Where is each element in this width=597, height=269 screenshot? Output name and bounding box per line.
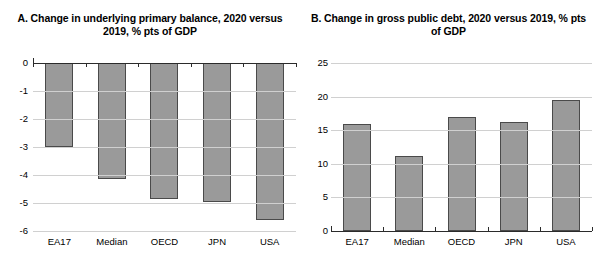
x-tick-label-oecd: OECD [435, 236, 487, 247]
x-axis-end-cap [296, 63, 297, 67]
gridline [33, 231, 296, 232]
x-tick-label-median: Median [383, 236, 435, 247]
bar-median [395, 156, 423, 231]
bar-slot-jpn [488, 63, 540, 231]
bar-slot-oecd [435, 63, 487, 231]
x-axis-tick [435, 227, 436, 231]
panel-b-y-axis: 0510152025 [300, 0, 328, 269]
gridline [331, 63, 592, 64]
x-axis-tick [540, 227, 541, 231]
y-tick-label: -4 [2, 170, 28, 180]
y-tick-label: 0 [2, 58, 28, 68]
panel-a-x-tick-labels: EA17MedianOECDJPNUSA [33, 236, 296, 247]
x-tick-label-usa: USA [540, 236, 592, 247]
x-axis-tick [243, 63, 244, 67]
bar-slot-median [383, 63, 435, 231]
gridline [33, 91, 296, 92]
gridline [33, 203, 296, 204]
x-axis-end-cap [331, 227, 332, 231]
bar-jpn [500, 122, 528, 231]
y-tick-label: -5 [2, 198, 28, 208]
bar-usa [552, 100, 580, 231]
bar-oecd [150, 63, 178, 199]
y-tick-label: -1 [2, 86, 28, 96]
panel-b-title: B. Change in gross public debt, 2020 ver… [308, 12, 589, 38]
x-axis-end-cap [592, 227, 593, 231]
bar-oecd [448, 117, 476, 231]
gridline [331, 197, 592, 198]
x-tick-label-median: Median [86, 236, 139, 247]
y-tick-label: 20 [302, 92, 328, 102]
panel-b-plot-area [331, 63, 592, 231]
y-tick-label: 15 [302, 125, 328, 135]
y-tick-label: 0 [302, 226, 328, 236]
x-tick-label-ea17: EA17 [33, 236, 86, 247]
gridline [331, 130, 592, 131]
x-tick-label-usa: USA [243, 236, 296, 247]
gridline [33, 119, 296, 120]
gridline [331, 97, 592, 98]
x-axis-tick [191, 63, 192, 67]
y-tick-label: -6 [2, 226, 28, 236]
figure-canvas: A. Change in underlying primary balance,… [0, 0, 597, 269]
panel-b-x-tick-labels: EA17MedianOECDJPNUSA [331, 236, 592, 247]
bar-slot-ea17 [331, 63, 383, 231]
y-tick-label: -2 [2, 114, 28, 124]
x-axis-tick [488, 227, 489, 231]
gridline [33, 175, 296, 176]
x-axis-tick [138, 63, 139, 67]
x-tick-label-jpn: JPN [488, 236, 540, 247]
gridline [33, 147, 296, 148]
x-tick-label-ea17: EA17 [331, 236, 383, 247]
x-tick-label-oecd: OECD [138, 236, 191, 247]
gridline [331, 164, 592, 165]
bar-jpn [203, 63, 231, 202]
x-axis-tick [86, 63, 87, 67]
x-axis-end-cap [33, 63, 34, 67]
y-tick-label: 5 [302, 192, 328, 202]
bar-ea17 [343, 124, 371, 231]
panel-a-y-axis: 0-1-2-3-4-5-6 [0, 0, 28, 269]
bar-median [98, 63, 126, 179]
y-tick-label: 25 [302, 58, 328, 68]
y-tick-label: 10 [302, 159, 328, 169]
x-tick-label-jpn: JPN [191, 236, 244, 247]
panel-a-plot-area [33, 63, 296, 231]
y-tick-label: -3 [2, 142, 28, 152]
bar-usa [256, 63, 284, 220]
bar-slot-usa [540, 63, 592, 231]
panel-b-bars [331, 63, 592, 231]
zero-axis-line [33, 63, 296, 64]
panel-a-title: A. Change in underlying primary balance,… [8, 12, 292, 38]
bar-ea17 [45, 63, 73, 147]
x-axis-tick [383, 227, 384, 231]
zero-axis-line [331, 231, 592, 232]
